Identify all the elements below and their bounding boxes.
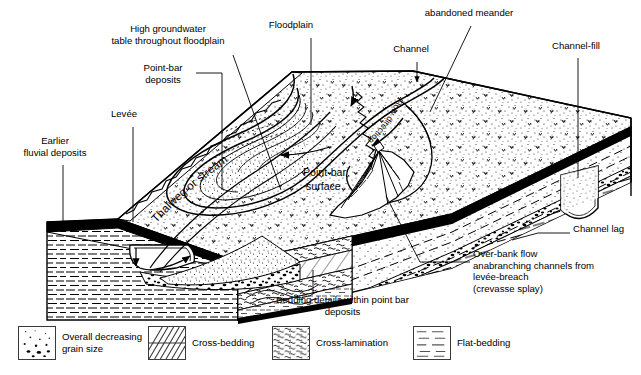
legend-item-cross-bedding: Cross-bedding bbox=[148, 326, 254, 360]
legend-item-overall-decreasing-grain-size: Overall decreasing grain size bbox=[18, 326, 142, 360]
legend-label-flat-bedding: Flat-bedding bbox=[457, 337, 510, 349]
label-high-groundwater: High groundwater table throughout floodp… bbox=[68, 23, 268, 46]
label-channel-fill: Channel-fill bbox=[531, 40, 621, 52]
legend: Overall decreasing grain size Cross-bedd… bbox=[0, 322, 641, 372]
swatch-cross-lamination-icon bbox=[272, 326, 310, 360]
point-bar-surface-annotation: Point-bar bbox=[303, 166, 346, 178]
label-abandoned-meander: abandoned meander bbox=[399, 7, 539, 19]
block-diagram-figure: Thalweg or stream Flow direction Point-b… bbox=[0, 0, 641, 375]
label-bedding-details: Bedding details within point bar deposit… bbox=[250, 294, 435, 317]
swatch-flat-bedding-icon bbox=[413, 326, 451, 360]
label-over-bank-flow: Over-bank flow anabranching channels fro… bbox=[473, 248, 641, 294]
block-diagram-svg: Thalweg or stream Flow direction Point-b… bbox=[0, 0, 641, 375]
channel-fill-shape bbox=[561, 166, 598, 219]
legend-label-cross-bedding: Cross-bedding bbox=[192, 337, 254, 349]
label-floodplain: Floodplain bbox=[251, 19, 331, 31]
legend-item-cross-lamination: Cross-lamination bbox=[272, 326, 388, 360]
swatch-cross-bedding-icon bbox=[148, 326, 186, 360]
legend-label-overall-decreasing-grain-size: Overall decreasing grain size bbox=[62, 331, 142, 354]
point-bar-surface-annotation-2: surface bbox=[306, 180, 341, 192]
label-channel: Channel bbox=[381, 43, 441, 55]
legend-label-cross-lamination: Cross-lamination bbox=[316, 337, 388, 349]
label-earlier-fluvial-deposits: Earlier fluvial deposits bbox=[0, 135, 110, 158]
swatch-stipple-grain-icon bbox=[18, 326, 56, 360]
label-point-bar-deposits: Point-bar deposits bbox=[113, 62, 213, 85]
legend-item-flat-bedding: Flat-bedding bbox=[413, 326, 510, 360]
label-channel-lag: Channel lag bbox=[573, 223, 641, 235]
label-levee: Levée bbox=[94, 108, 154, 120]
